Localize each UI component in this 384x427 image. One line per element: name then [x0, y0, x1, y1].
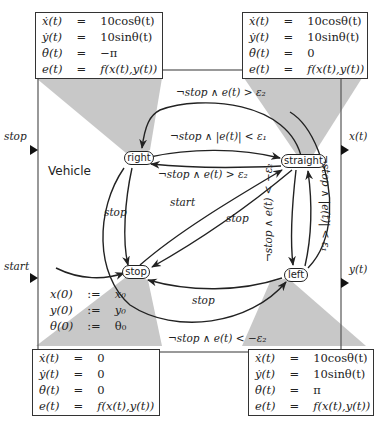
- lhs: ẏ(t): [243, 29, 274, 45]
- lhs: θ(0): [44, 318, 77, 334]
- equation-row: θ̇(t)=0: [243, 45, 368, 61]
- left-dynamics-box: ẋ(t)=10cosθ(t) ẏ(t)=10sinθ(t) θ̇(t)=π e(…: [248, 349, 374, 416]
- x-output-label: x(t): [349, 130, 367, 142]
- operator: =: [274, 13, 304, 29]
- lhs: ẋ(t): [249, 350, 280, 366]
- right-dynamics-box: ẋ(t)=10cosθ(t) ẏ(t)=10sinθ(t) θ̇(t)=−π e…: [35, 12, 163, 79]
- arc-left-to-stop: [148, 278, 282, 289]
- rhs: 10cosθ(t): [303, 13, 368, 29]
- lhs: ẋ(t): [36, 13, 67, 29]
- rhs: θ₀: [111, 318, 131, 334]
- rhs: 10sinθ(t): [303, 29, 368, 45]
- transition-label-straight-right-top: ¬stop ∧ e(t) > ε₂: [176, 86, 266, 98]
- lhs: y(0): [44, 302, 77, 318]
- transition-label-straight-stop: stop: [226, 212, 249, 224]
- arc-straight-to-left: [292, 170, 296, 265]
- transition-label-straight-right: ¬stop ∧ e(t) > ε₂: [158, 168, 248, 180]
- rhs: f(x(t),y(t)): [96, 61, 161, 77]
- operator: =: [67, 45, 97, 61]
- transition-label-left-straight: ¬stop ∧ |e(t)| < ε₁: [320, 155, 332, 252]
- hybrid-automaton-diagram: ẋ(t)=10cosθ(t) ẏ(t)=10sinθ(t) θ̇(t)=−π e…: [0, 0, 384, 427]
- state-left[interactable]: left: [284, 268, 308, 282]
- transition-label-right-stop: stop: [104, 206, 127, 218]
- operator: =: [274, 45, 304, 61]
- rhs: 0: [93, 366, 158, 382]
- lhs: θ̇(t): [243, 45, 274, 61]
- rhs: 10cosθ(t): [96, 13, 161, 29]
- rhs: 0: [93, 382, 158, 398]
- initial-transition-arrow: [56, 268, 124, 278]
- rhs: f(x(t),y(t)): [303, 61, 368, 77]
- equation-row: ẏ(t)=10sinθ(t): [36, 29, 161, 45]
- equation-row: e(t)=f(x(t),y(t)): [249, 398, 374, 414]
- operator: =: [280, 350, 310, 366]
- lhs: x(0): [44, 286, 77, 302]
- equation-row: e(t)=f(x(t),y(t)): [243, 61, 368, 77]
- init-row: x(0):=x₀: [44, 286, 130, 302]
- transition-label-stop-straight: start: [170, 196, 195, 208]
- rhs: 10cosθ(t): [309, 350, 374, 366]
- component-name: Vehicle: [48, 164, 91, 178]
- straight-dynamics-table: ẋ(t)=10cosθ(t) ẏ(t)=10sinθ(t) θ̇(t)=0 e(…: [243, 13, 368, 77]
- y-output-label: y(t): [349, 263, 367, 275]
- equation-row: e(t)=f(x(t),y(t)): [33, 398, 158, 414]
- transition-label-right-straight: ¬stop ∧ |e(t)| < ε₁: [170, 130, 267, 142]
- operator: =: [64, 366, 94, 382]
- equation-row: ẋ(t)=10cosθ(t): [36, 13, 161, 29]
- rhs: 0: [93, 350, 158, 366]
- stop-dynamics-box: ẋ(t)=0 ẏ(t)=0 θ̇(t)=0 e(t)=f(x(t),y(t)): [32, 349, 160, 416]
- equation-row: ẏ(t)=0: [33, 366, 158, 382]
- rhs: −π: [96, 45, 161, 61]
- lhs: ẏ(t): [36, 29, 67, 45]
- equation-row: ẋ(t)=10cosθ(t): [243, 13, 368, 29]
- rhs: x₀: [111, 286, 131, 302]
- equation-row: ẋ(t)=10cosθ(t): [249, 350, 374, 366]
- start-input-port-icon: [30, 273, 38, 283]
- transition-label-right-left-bottom: ¬stop ∧ e(t) < −ε₂: [168, 332, 267, 344]
- operator: =: [67, 13, 97, 29]
- equation-row: ẏ(t)=10sinθ(t): [249, 366, 374, 382]
- operator: =: [64, 382, 94, 398]
- right-callout-wedge: [36, 78, 162, 158]
- operator: =: [274, 29, 304, 45]
- rhs: f(x(t),y(t)): [93, 398, 158, 414]
- x-output-port-icon: [341, 145, 349, 155]
- equation-row: ẋ(t)=0: [33, 350, 158, 366]
- lhs: θ̇(t): [36, 45, 67, 61]
- start-input-label: start: [4, 260, 29, 272]
- lhs: ẋ(t): [33, 350, 64, 366]
- state-right[interactable]: right: [124, 151, 154, 165]
- transition-label-straight-left: ¬stop ∧ e(t) < −ε₂: [262, 163, 274, 262]
- arc-left-to-straight: [305, 171, 311, 266]
- rhs: 0: [303, 45, 368, 61]
- lhs: ẏ(t): [33, 366, 64, 382]
- initialization-table: x(0):=x₀ y(0):=y₀ θ(0):=θ₀: [44, 286, 130, 334]
- lhs: e(t): [249, 398, 280, 414]
- left-dynamics-table: ẋ(t)=10cosθ(t) ẏ(t)=10sinθ(t) θ̇(t)=π e(…: [249, 350, 374, 414]
- operator: =: [64, 350, 94, 366]
- rhs: y₀: [111, 302, 131, 318]
- lhs: θ̇(t): [33, 382, 64, 398]
- lhs: θ̇(t): [249, 382, 280, 398]
- state-stop[interactable]: stop: [122, 265, 150, 279]
- straight-dynamics-box: ẋ(t)=10cosθ(t) ẏ(t)=10sinθ(t) θ̇(t)=0 e(…: [242, 12, 368, 79]
- transition-label-left-stop: stop: [192, 294, 215, 306]
- operator: =: [280, 366, 310, 382]
- operator: =: [64, 398, 94, 414]
- right-dynamics-table: ẋ(t)=10cosθ(t) ẏ(t)=10sinθ(t) θ̇(t)=−π e…: [36, 13, 161, 77]
- operator: =: [280, 382, 310, 398]
- lhs: e(t): [36, 61, 67, 77]
- operator: =: [67, 29, 97, 45]
- equation-row: θ̇(t)=π: [249, 382, 374, 398]
- equation-row: θ̇(t)=0: [33, 382, 158, 398]
- rhs: 10sinθ(t): [309, 366, 374, 382]
- operator: :=: [77, 318, 111, 334]
- rhs: 10sinθ(t): [96, 29, 161, 45]
- operator: =: [67, 61, 97, 77]
- stop-dynamics-table: ẋ(t)=0 ẏ(t)=0 θ̇(t)=0 e(t)=f(x(t),y(t)): [33, 350, 158, 414]
- rhs: f(x(t),y(t)): [309, 398, 374, 414]
- operator: =: [274, 61, 304, 77]
- y-output-port-icon: [341, 278, 349, 288]
- arc-right-to-straight: [150, 150, 280, 158]
- arc-stop-to-straight: [140, 170, 282, 265]
